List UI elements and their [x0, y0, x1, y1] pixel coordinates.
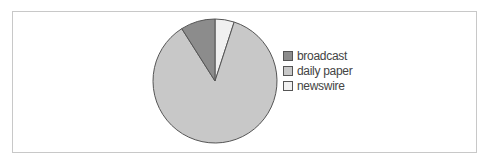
legend-item-broadcast: broadcast: [283, 48, 352, 63]
pie-chart: [150, 16, 280, 146]
legend-label: broadcast: [297, 49, 347, 63]
legend-item-newswire: newswire: [283, 78, 352, 93]
legend-swatch-broadcast: [283, 51, 293, 61]
legend: broadcast daily paper newswire: [283, 48, 352, 93]
legend-swatch-newswire: [283, 81, 293, 91]
legend-label: newswire: [297, 79, 345, 93]
legend-item-daily-paper: daily paper: [283, 63, 352, 78]
legend-swatch-daily-paper: [283, 66, 293, 76]
legend-label: daily paper: [297, 64, 352, 78]
